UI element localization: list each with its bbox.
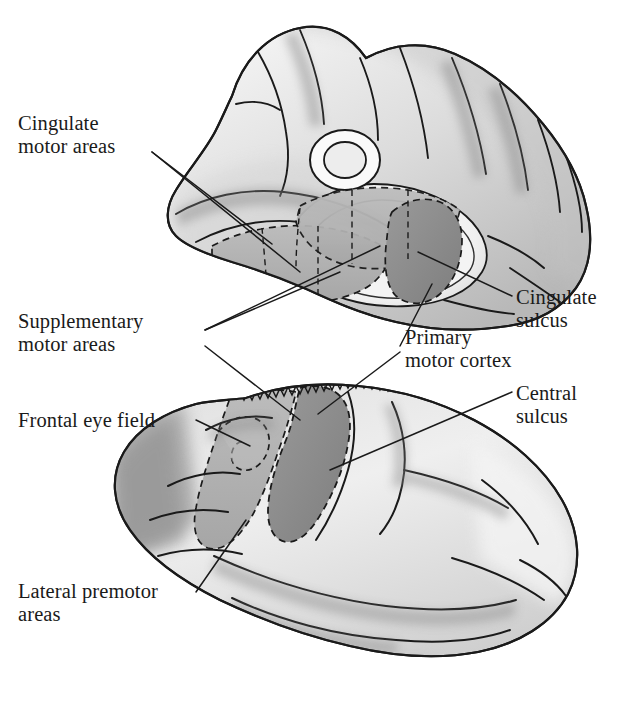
thalamus-ring-inner xyxy=(324,142,366,178)
label-central-sulcus: Central sulcus xyxy=(516,382,577,428)
label-supplementary-motor-areas: Supplementary motor areas xyxy=(18,310,143,356)
brain-motor-areas-figure: Cingulate motor areas Supplementary moto… xyxy=(0,0,623,718)
label-cingulate-motor-areas: Cingulate motor areas xyxy=(18,112,115,158)
label-frontal-eye-field: Frontal eye field xyxy=(18,409,155,432)
label-primary-motor-cortex: Primary motor cortex xyxy=(405,326,512,372)
label-lateral-premotor-areas: Lateral premotor areas xyxy=(18,580,158,626)
label-cingulate-sulcus: Cingulate sulcus xyxy=(516,286,597,332)
